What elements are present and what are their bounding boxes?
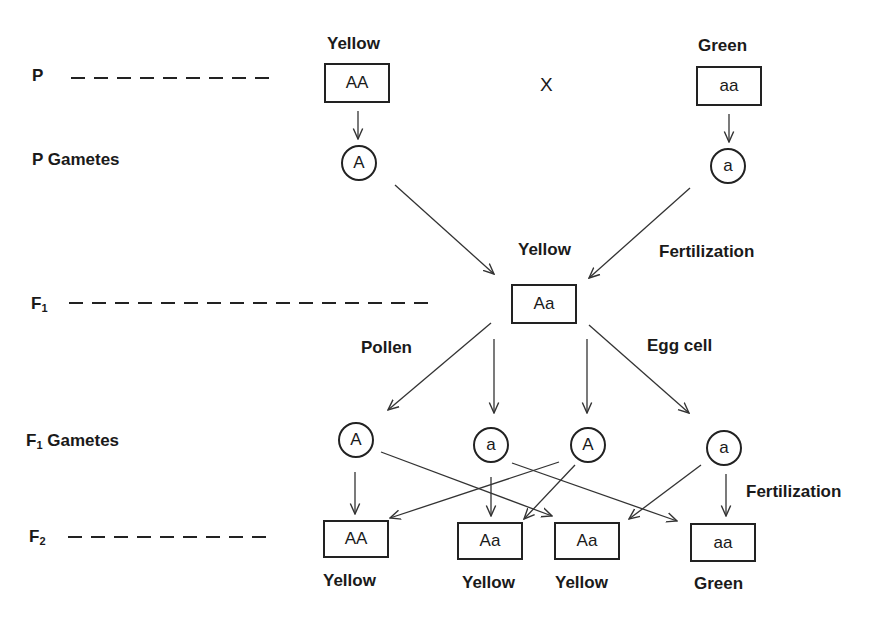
row-label-f2: F2 [29, 527, 46, 547]
f1-fertilization-label: Fertilization [659, 242, 754, 262]
pollen-label: Pollen [361, 338, 412, 358]
f1-gamete-4-text: a [719, 438, 728, 458]
parent-right-genotype: aa [720, 76, 739, 96]
f2-offspring-2-phenotype: Yellow [462, 573, 515, 593]
parent-right-phenotype: Green [698, 36, 747, 56]
egg-cell-label: Egg cell [647, 336, 712, 356]
f2-offspring-4-genotype: aa [714, 533, 733, 553]
row-label-f1-gametes-suffix: Gametes [43, 431, 120, 450]
f1-gamete-2-text: a [486, 435, 495, 455]
p-gamete-right: a [710, 148, 746, 184]
f1-gamete-1-text: A [350, 430, 361, 450]
row-label-p: P [32, 66, 43, 86]
f1-gamete-1: A [338, 422, 374, 458]
row-label-p-text: P [32, 66, 43, 85]
f2-offspring-1-phenotype: Yellow [323, 571, 376, 591]
parent-right-genotype-box: aa [696, 66, 762, 106]
row-label-f2-sub: 2 [39, 535, 45, 547]
p-gamete-left-text: A [353, 153, 364, 173]
f2-offspring-1-genotype: AA [345, 529, 368, 549]
f2-offspring-2-genotype: Aa [480, 531, 501, 551]
parent-left-genotype-box: AA [324, 63, 390, 103]
row-label-p-gametes: P Gametes [32, 150, 120, 170]
f1-gamete-2: a [473, 427, 509, 463]
cross-symbol: X [540, 74, 553, 96]
f2-fertilization-label: Fertilization [746, 482, 841, 502]
row-label-f1-gametes-text: F [26, 431, 36, 450]
f1-phenotype: Yellow [518, 240, 571, 260]
parent-left-phenotype: Yellow [327, 34, 380, 54]
f1-gamete-4: a [706, 430, 742, 466]
f2-offspring-2-box: Aa [457, 522, 523, 560]
f2-offspring-3-phenotype: Yellow [555, 573, 608, 593]
f2-offspring-1-box: AA [323, 520, 389, 558]
f1-gamete-3-text: A [582, 435, 593, 455]
f1-genotype-box: Aa [511, 284, 577, 324]
parent-left-genotype: AA [346, 73, 369, 93]
row-label-f1: F1 [31, 294, 48, 314]
row-label-f1-sub: 1 [41, 302, 47, 314]
row-label-f1-gametes: F1 Gametes [26, 431, 119, 451]
f1-genotype: Aa [534, 294, 555, 314]
f2-offspring-3-box: Aa [554, 522, 620, 560]
f1-gamete-3: A [570, 427, 606, 463]
row-label-p-gametes-text: P Gametes [32, 150, 120, 169]
row-label-f1-text: F [31, 294, 41, 313]
f2-offspring-3-genotype: Aa [577, 531, 598, 551]
f2-offspring-4-box: aa [690, 523, 756, 562]
p-gamete-left: A [341, 145, 377, 181]
row-label-f2-text: F [29, 527, 39, 546]
f2-offspring-4-phenotype: Green [694, 574, 743, 594]
p-gamete-right-text: a [723, 156, 732, 176]
